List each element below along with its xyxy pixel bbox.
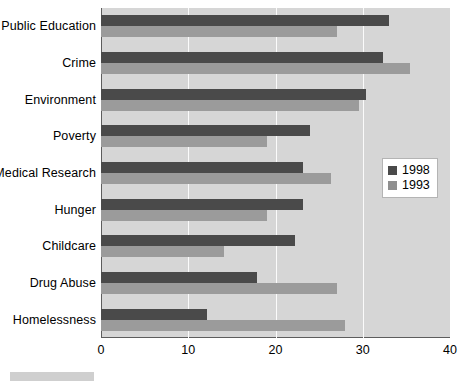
category-label: Environment [25, 93, 96, 107]
category-label: Poverty [53, 129, 96, 143]
category-label: Public Education [1, 19, 96, 33]
bar-chart: Public EducationCrimeEnvironmentPovertyM… [0, 0, 458, 381]
legend-swatch-icon [388, 166, 397, 175]
x-axis-tick-labels: 010203040 [0, 343, 458, 363]
x-tick-label: 0 [98, 343, 105, 357]
legend-label: 1998 [402, 164, 430, 177]
legend-swatch-icon [388, 181, 397, 190]
category-label: Homelessness [13, 313, 96, 327]
category-label: Hunger [54, 203, 96, 217]
chart-legend: 19981993 [382, 158, 438, 198]
x-tick-label: 10 [181, 343, 195, 357]
x-tick-label: 20 [269, 343, 283, 357]
legend-item: 1993 [388, 178, 430, 193]
legend-item: 1998 [388, 163, 430, 178]
category-label: Medical Research [0, 166, 96, 180]
bottom-ui-strip [10, 372, 94, 381]
category-label: Crime [62, 56, 96, 70]
category-label: Childcare [42, 239, 96, 253]
category-label: Drug Abuse [30, 276, 96, 290]
x-tick-label: 40 [443, 343, 457, 357]
x-tick-label: 30 [356, 343, 370, 357]
legend-label: 1993 [402, 179, 430, 192]
